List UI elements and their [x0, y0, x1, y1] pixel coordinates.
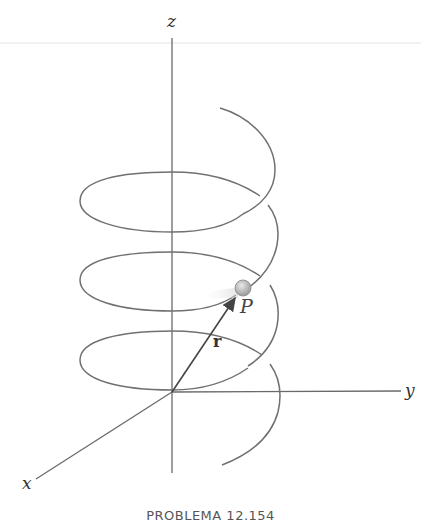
vector-r-label: r	[213, 332, 222, 351]
z-axis-label: z	[166, 11, 177, 31]
particle-point-p	[235, 280, 251, 296]
y-axis	[172, 391, 401, 392]
x-axis	[36, 392, 172, 479]
y-axis-label: y	[404, 380, 415, 400]
position-vector-r	[172, 298, 235, 392]
figure-caption: PROBLEMA 12.154	[0, 508, 421, 523]
point-p-label: P	[239, 295, 254, 317]
motion-trail	[198, 288, 238, 299]
helix-figure: z y x P r	[0, 0, 421, 523]
x-axis-label: x	[22, 473, 32, 493]
